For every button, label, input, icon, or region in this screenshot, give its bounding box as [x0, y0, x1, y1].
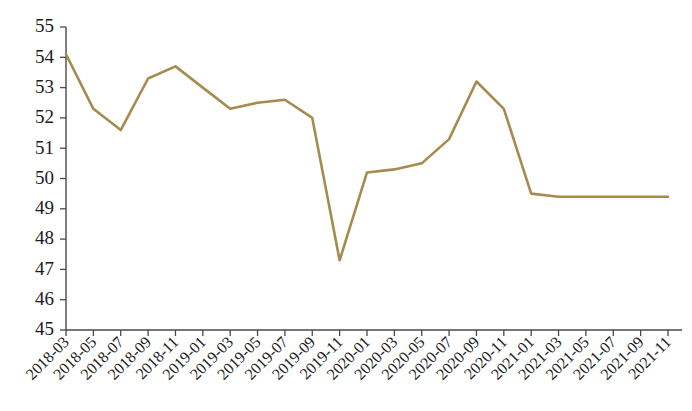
y-tick-label: 50	[35, 167, 54, 188]
y-axis: 4546474849505152535455	[35, 15, 66, 339]
y-tick-label: 51	[35, 137, 54, 158]
x-axis: 2018-032018-052018-072018-092018-112019-…	[22, 330, 682, 383]
y-tick-label: 53	[35, 76, 54, 97]
y-tick-label: 55	[35, 15, 54, 36]
y-tick-label: 52	[35, 106, 54, 127]
line-chart: 4546474849505152535455 2018-032018-05201…	[0, 0, 692, 411]
y-tick-label: 46	[35, 288, 54, 309]
data-series-group	[66, 54, 668, 260]
y-tick-label: 47	[35, 258, 54, 279]
y-tick-label: 49	[35, 197, 54, 218]
data-series-line-0	[66, 54, 668, 260]
y-tick-label: 48	[35, 227, 54, 248]
chart-canvas: 4546474849505152535455 2018-032018-05201…	[0, 0, 692, 411]
y-tick-label: 45	[35, 318, 54, 339]
y-tick-label: 54	[35, 46, 55, 67]
